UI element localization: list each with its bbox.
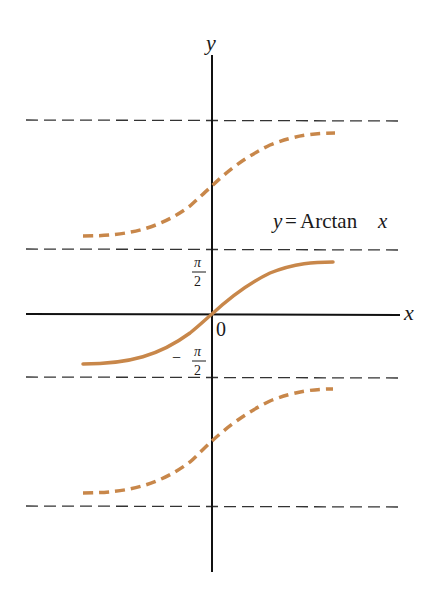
lower-branch-curve [83,389,333,493]
x-axis-label: x [403,300,414,325]
origin-label: 0 [216,318,226,340]
principal-branch-curve [83,262,333,364]
tick-upper-denominator: 2 [194,274,201,289]
curve-label: y = Arctan x [271,209,388,233]
curve-label-lhs: y [271,209,283,233]
tick-lower-sign: − [172,349,181,366]
tick-label-neg-pi-over-2: − π 2 [172,344,206,378]
tick-lower-denominator: 2 [194,363,201,378]
tick-lower-numerator: π [194,344,202,359]
y-axis-label: y [204,30,216,55]
curve-label-eq: = [285,209,297,233]
tick-upper-numerator: π [194,255,202,270]
tick-label-pi-over-2: π 2 [192,255,206,289]
upper-branch-curve [83,133,335,236]
curve-label-var: x [377,209,388,233]
curve-label-func: Arctan [300,209,358,233]
arctan-diagram: y x 0 π 2 − π 2 y = Arctan x [0,0,436,594]
